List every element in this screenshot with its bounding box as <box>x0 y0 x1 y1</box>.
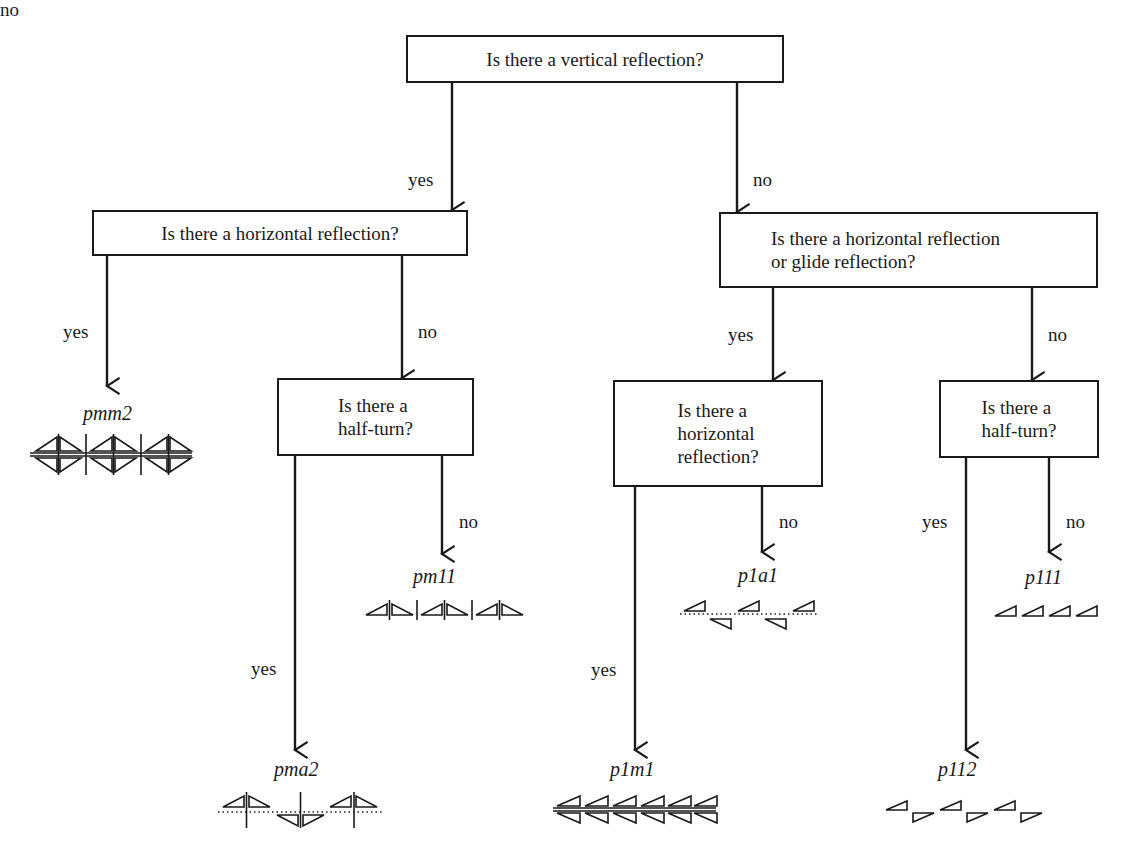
result-pm11: pm11 <box>413 565 456 587</box>
question-text: Is there a vertical reflection? <box>486 48 703 71</box>
pattern-p1m1 <box>553 796 717 823</box>
question-half-turn-left: Is there a half-turn? <box>277 378 474 456</box>
pattern-p1a1 <box>680 601 818 629</box>
edge-label-q2-no: no <box>0 0 19 20</box>
edge-label-q5-yes: yes <box>591 660 616 680</box>
question-text: Is there a horizontal reflection or glid… <box>771 227 1000 273</box>
edge-label-q5-no: no <box>779 512 798 532</box>
result-p111: p111 <box>1025 566 1062 588</box>
question-text: Is there a horizontal reflection? <box>161 222 398 245</box>
edge-label-q1-no: no <box>753 170 772 190</box>
pattern-pma2 <box>218 792 382 828</box>
question-text: Is there a half-turn? <box>982 396 1057 442</box>
pattern-p111 <box>995 606 1097 616</box>
question-vertical-reflection: Is there a vertical reflection? <box>406 35 784 83</box>
edge-label-q2-no: no <box>418 322 437 342</box>
question-text: Is there a half-turn? <box>338 394 413 440</box>
result-p1m1: p1m1 <box>610 758 654 780</box>
result-p1a1: p1a1 <box>738 564 778 586</box>
result-pma2: pma2 <box>274 758 318 780</box>
edge-label-q2-yes: yes <box>63 322 88 342</box>
edge-label-q1-yes: yes <box>408 170 433 190</box>
result-p112: p112 <box>938 758 977 780</box>
edge-label-q3-no: no <box>1048 325 1067 345</box>
question-horizontal-reflection: Is there a horizontal reflection? <box>92 210 468 256</box>
question-horizontal-reflection-middle: Is there a horizontal reflection? <box>613 380 823 487</box>
edge-label-q4-yes: yes <box>251 659 276 679</box>
edge-label-q6-yes: yes <box>922 512 947 532</box>
question-horizontal-or-glide-reflection: Is there a horizontal reflection or glid… <box>719 212 1098 288</box>
pattern-pmm2 <box>30 434 192 475</box>
edge-label-q6-no: no <box>1066 512 1085 532</box>
result-pmm2: pmm2 <box>83 402 132 424</box>
pattern-p112 <box>886 801 1042 822</box>
pattern-pm11 <box>366 600 523 620</box>
question-half-turn-right: Is there a half-turn? <box>939 380 1099 458</box>
edge-label-q3-yes: yes <box>728 325 753 345</box>
question-text: Is there a horizontal reflection? <box>677 399 758 468</box>
edge-label-q4-no: no <box>459 512 478 532</box>
